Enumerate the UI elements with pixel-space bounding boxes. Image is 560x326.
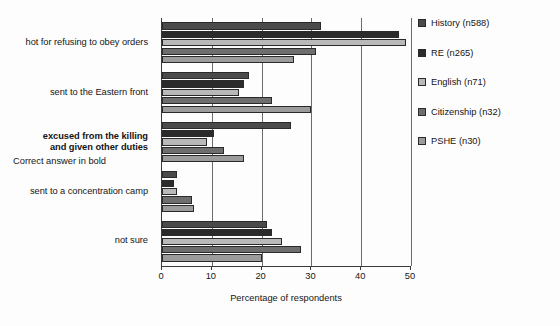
bar — [162, 39, 406, 46]
bar — [162, 80, 244, 87]
category-label: not sure — [0, 235, 148, 247]
category-label-line: sent to the Eastern front — [0, 87, 148, 99]
legend-label: English (n71) — [431, 77, 486, 87]
category-label: excused from the killingand given other … — [0, 131, 148, 154]
bar — [162, 155, 244, 162]
bar — [162, 196, 192, 203]
bar — [162, 171, 177, 178]
bar — [162, 180, 174, 187]
legend-label: RE (n265) — [431, 48, 473, 58]
x-tick-0 — [161, 266, 162, 270]
legend-item[interactable]: English (n71) — [418, 77, 486, 87]
bar — [162, 205, 194, 212]
legend-item[interactable]: PSHE (n30) — [418, 136, 481, 146]
legend-label: History (n588) — [431, 18, 489, 28]
x-tick-10 — [211, 266, 212, 270]
x-axis-line — [161, 266, 411, 267]
bar — [162, 56, 294, 63]
legend-swatch-icon — [418, 78, 426, 86]
bar — [162, 238, 282, 245]
gridline-30 — [311, 18, 312, 266]
bar — [162, 147, 224, 154]
x-tick-40 — [360, 266, 361, 270]
x-tick-label: 30 — [305, 271, 315, 281]
legend-swatch-icon — [418, 19, 426, 27]
category-label-line: and given other duties — [0, 142, 148, 154]
category-label-line: excused from the killing — [0, 131, 148, 143]
x-tick-20 — [261, 266, 262, 270]
bar — [162, 72, 249, 79]
bar-chart-figure: hot for refusing to obey orderssent to t… — [0, 0, 560, 326]
bar — [162, 122, 291, 129]
bar — [162, 89, 239, 96]
bar — [162, 48, 316, 55]
x-tick-label: 20 — [255, 271, 265, 281]
category-label-line: hot for refusing to obey orders — [0, 37, 148, 49]
bar — [162, 97, 272, 104]
legend-label: Citizenship (n32) — [431, 107, 501, 117]
bar — [162, 22, 321, 29]
x-axis-title: Percentage of respondents — [161, 293, 411, 303]
category-label: sent to a concentration camp — [0, 186, 148, 198]
x-tick-label: 0 — [158, 271, 163, 281]
bar — [162, 246, 301, 253]
x-tick-label: 10 — [206, 271, 216, 281]
category-axis-labels: hot for refusing to obey orderssent to t… — [0, 18, 152, 266]
x-tick-label: 50 — [405, 271, 415, 281]
legend-note: Correct answer in bold — [13, 156, 106, 166]
bar — [162, 31, 399, 38]
x-tick-30 — [310, 266, 311, 270]
legend-swatch-icon — [418, 137, 426, 145]
bar — [162, 130, 214, 137]
bar — [162, 229, 272, 236]
bar — [162, 138, 207, 145]
x-tick-label: 40 — [355, 271, 365, 281]
bar — [162, 106, 311, 113]
legend-item[interactable]: RE (n265) — [418, 48, 473, 58]
category-label-line: not sure — [0, 235, 148, 247]
category-label-line: sent to a concentration camp — [0, 186, 148, 198]
category-label: hot for refusing to obey orders — [0, 37, 148, 49]
legend-label: PSHE (n30) — [431, 136, 481, 146]
legend-swatch-icon — [418, 49, 426, 57]
category-label: sent to the Eastern front — [0, 87, 148, 99]
gridline-50 — [411, 18, 412, 266]
bar — [162, 254, 262, 261]
x-tick-50 — [410, 266, 411, 270]
legend-item[interactable]: History (n588) — [418, 18, 489, 28]
legend-item[interactable]: Citizenship (n32) — [418, 107, 501, 117]
bar — [162, 188, 177, 195]
gridline-40 — [361, 18, 362, 266]
plot-area — [161, 18, 411, 266]
bar — [162, 221, 267, 228]
legend-swatch-icon — [418, 108, 426, 116]
